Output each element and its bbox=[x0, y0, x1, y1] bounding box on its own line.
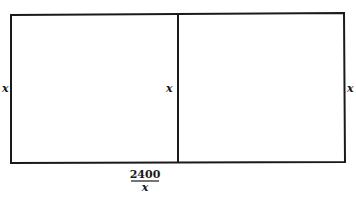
middle-divider-label: x bbox=[165, 82, 173, 95]
fraction-numerator: 2400 bbox=[130, 168, 161, 181]
left-side-label: x bbox=[1, 82, 9, 95]
right-side-label: x bbox=[346, 82, 354, 95]
bottom-fraction-label: 2400 x bbox=[130, 168, 161, 194]
fraction-denominator: x bbox=[141, 181, 149, 194]
diagram-canvas: x x x 2400 x bbox=[0, 0, 356, 201]
